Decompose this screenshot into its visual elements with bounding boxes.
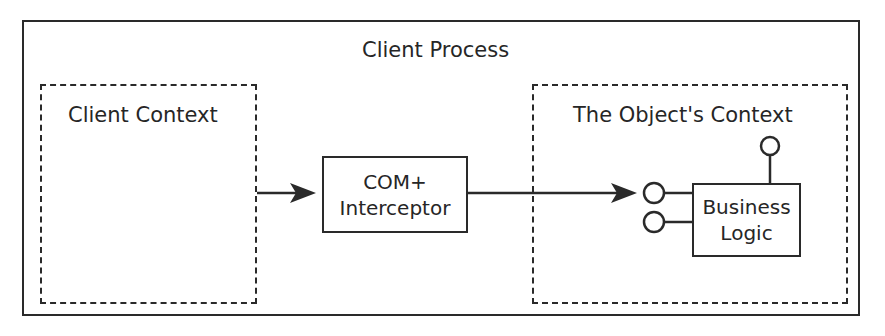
arrow-interceptor-to-business-logic [468, 183, 637, 203]
connectors [0, 0, 885, 336]
interface-top-icon [761, 137, 779, 183]
interface-left-1-icon [644, 183, 692, 203]
arrow-client-to-interceptor [257, 183, 316, 203]
interface-left-2-icon [644, 212, 692, 232]
